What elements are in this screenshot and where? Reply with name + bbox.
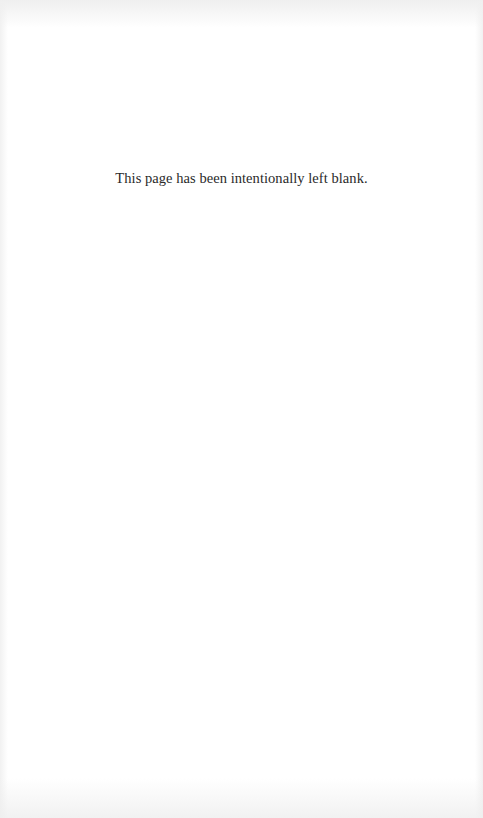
scan-edge-right [475, 0, 483, 818]
scan-edge-left [0, 0, 8, 818]
blank-page-notice: This page has been intentionally left bl… [0, 170, 483, 187]
document-page: This page has been intentionally left bl… [0, 0, 483, 818]
